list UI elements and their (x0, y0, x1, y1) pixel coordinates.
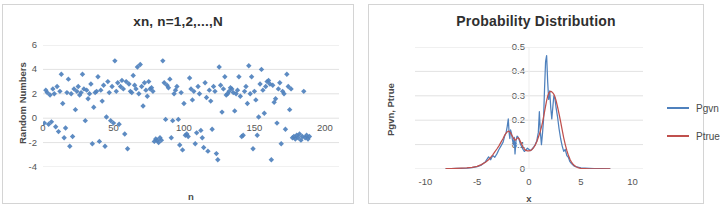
distribution-x-tick: 5 (567, 176, 595, 187)
legend-item[interactable]: Ptrue (667, 127, 720, 145)
scatter-y-tick: 4 (13, 63, 37, 74)
scatter-plot-area (43, 45, 339, 167)
distribution-x-tick: -10 (411, 176, 439, 187)
legend-label: Ptrue (696, 131, 720, 142)
scatter-chart-title: xn, n=1,2,...,N (3, 14, 353, 29)
legend-item[interactable]: Pgvn (667, 99, 720, 117)
scatter-y-tick: -4 (13, 161, 37, 172)
scatter-chart-panel: xn, n=1,2,...,N Random Numbers n 6420-2-… (2, 4, 354, 204)
distribution-x-tick: 10 (619, 176, 647, 187)
distribution-y-axis-title: Pgvn, Ptrue (385, 83, 396, 136)
legend-label: Pgvn (696, 103, 719, 114)
scatter-y-tick: 6 (13, 39, 37, 50)
scatter-y-tick: 2 (13, 88, 37, 99)
distribution-plot-area (415, 47, 643, 169)
distribution-chart-title: Probability Distribution (369, 13, 703, 29)
distribution-x-axis-title: x (509, 193, 549, 204)
distribution-x-tick: -5 (463, 176, 491, 187)
legend-color-swatch (667, 135, 689, 137)
distribution-legend: PgvnPtrue (667, 99, 720, 155)
scatter-y-tick: -2 (13, 137, 37, 148)
scatter-x-axis-title: n (171, 191, 211, 202)
distribution-x-tick: 0 (515, 176, 543, 187)
distribution-chart-panel: Probability Distribution Pgvn, Ptrue x 0… (368, 4, 704, 204)
legend-color-swatch (667, 107, 689, 109)
scatter-y-axis-title: Random Numbers (17, 62, 28, 144)
